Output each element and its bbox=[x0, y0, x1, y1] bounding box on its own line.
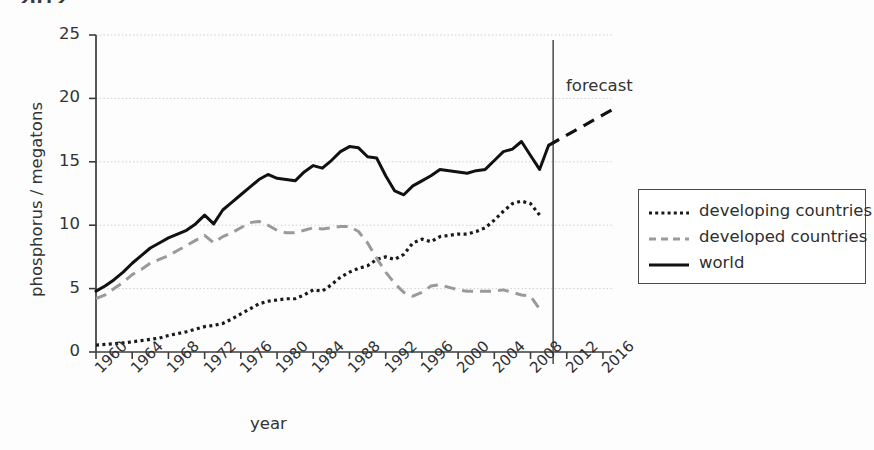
legend-label: developed countries bbox=[699, 227, 867, 246]
series-line-world bbox=[96, 142, 549, 292]
legend-swatch-solid-icon bbox=[648, 256, 690, 268]
y-tick-label: 0 bbox=[46, 341, 80, 360]
line-chart: phosphorus / megatons year forecast 0510… bbox=[0, 0, 660, 450]
y-axis-label: phosphorus / megatons bbox=[27, 80, 46, 320]
chart-canvas bbox=[0, 0, 660, 450]
x-axis-label: year bbox=[250, 414, 287, 433]
y-tick-label: 10 bbox=[46, 214, 80, 233]
legend-label: developing countries bbox=[699, 201, 872, 220]
forecast-annotation: forecast bbox=[566, 76, 633, 95]
legend-label: world bbox=[699, 253, 744, 272]
series-line-developed-countries bbox=[96, 221, 540, 308]
legend-swatch-dashed-icon bbox=[648, 230, 690, 242]
series-line-developing-countries bbox=[96, 201, 540, 345]
legend-item-developed-countries[interactable]: developed countries bbox=[648, 223, 856, 249]
legend-item-developing-countries[interactable]: developing countries bbox=[648, 197, 856, 223]
series-forecast-world bbox=[549, 110, 612, 146]
legend-swatch-dotted-icon bbox=[648, 204, 690, 216]
figure-root: 2012. phosphorus / megatons year forecas… bbox=[0, 0, 874, 450]
y-tick-label: 15 bbox=[46, 151, 80, 170]
legend-item-world[interactable]: world bbox=[648, 249, 856, 275]
y-tick-label: 25 bbox=[46, 24, 80, 43]
y-tick-label: 20 bbox=[46, 87, 80, 106]
y-tick-label: 5 bbox=[46, 278, 80, 297]
chart-legend: developing countriesdeveloped countriesw… bbox=[638, 189, 866, 284]
